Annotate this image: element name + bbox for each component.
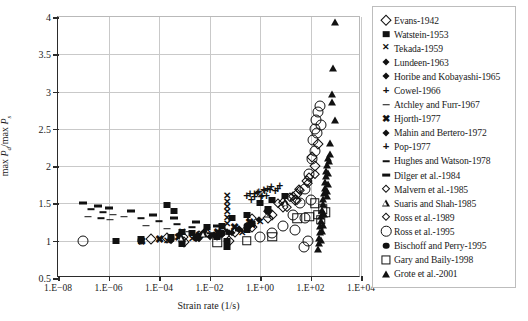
legend-item-label: Ross et al.-1995 [394, 226, 455, 237]
legend-item[interactable]: Evans-1942 [379, 13, 511, 27]
legend-item[interactable]: Mahin and Bertero-1972 [379, 126, 511, 140]
marker-diamond-open-small-icon [382, 213, 391, 222]
legend-item[interactable]: Ross et al.-1989 [379, 210, 511, 224]
y-axis-tick-label: 1 [46, 235, 51, 246]
marker-minus-icon [173, 224, 180, 226]
legend-item-label: Hjorth-1977 [394, 113, 440, 124]
marker-square-filled-icon [163, 202, 170, 208]
marker-square-open-icon [267, 232, 277, 242]
legend-item[interactable]: +Pop-1977 [379, 140, 511, 154]
marker-x-icon: ✕ [223, 191, 231, 201]
legend-item-label: Grote et al.-2001 [394, 268, 458, 279]
marker-diamond-open-icon [381, 15, 392, 26]
marker-circle-open-icon [255, 231, 266, 242]
marker-minus-icon [383, 160, 390, 162]
y-axis-tick-label: 3 [46, 86, 51, 97]
legend-marker [379, 253, 394, 267]
marker-diamond-filled-icon [382, 59, 389, 66]
legend-item[interactable]: ✕Tekada-1959 [379, 41, 511, 55]
marker-square-open-icon [212, 237, 222, 247]
marker-circle-open-icon [303, 235, 314, 246]
y-axis-tick-label: 0.5 [39, 273, 52, 284]
legend-item[interactable]: Malvern et al.-1985 [379, 182, 511, 196]
legend-marker [379, 126, 394, 140]
legend-item-label: Hughes and Watson-1978 [394, 155, 491, 166]
legend-item-label: Horibe and Kobayashi-1965 [394, 71, 500, 82]
y-axis-tick-label: 4 [46, 12, 51, 23]
marker-diamond-filled-icon [382, 129, 389, 136]
y-axis-tick [53, 166, 59, 168]
legend-marker [379, 69, 394, 83]
marker-minus-icon [138, 218, 145, 220]
legend-item[interactable]: +Cowel-1966 [379, 83, 511, 97]
marker-plus-icon: + [251, 191, 258, 203]
x-axis-tick-label: 1.E+02 [297, 283, 325, 293]
x-axis-tick-label: 1.E−04 [145, 283, 173, 293]
legend-marker: ✖ [379, 112, 394, 126]
x-axis-tick-label: 1.E−08 [44, 283, 72, 293]
marker-square-filled-icon [383, 31, 390, 37]
legend-item-label: Watstein-1953 [394, 29, 448, 40]
gridline-vertical [109, 17, 110, 276]
legend-item[interactable]: Horibe and Kobayashi-1965 [379, 69, 511, 83]
marker-triangle-filled-icon [325, 158, 333, 165]
legend-item[interactable]: ✖Hjorth-1977 [379, 112, 511, 126]
marker-triangle-filled-icon [324, 169, 332, 176]
marker-circle-open-icon [381, 226, 392, 237]
marker-thick-dash-icon [127, 209, 135, 212]
legend-marker [379, 55, 394, 69]
x-axis-tick [311, 276, 313, 281]
marker-circle-filled-icon [243, 222, 250, 229]
legend-item[interactable]: Suaris and Shah-1985 [379, 196, 511, 210]
legend-marker [379, 168, 394, 182]
legend-item[interactable]: Grote et al.-2001 [379, 267, 511, 281]
legend-item[interactable]: Dilger et al.-1984 [379, 168, 511, 182]
marker-triangle-filled-icon [324, 180, 332, 187]
marker-triangle-filled-icon [328, 98, 336, 105]
y-axis-tick-label: 2.5 [39, 123, 52, 134]
x-axis-title: Strain rate (1/s) [57, 300, 360, 311]
marker-circle-filled-icon [264, 207, 271, 214]
marker-minus-icon [97, 218, 104, 220]
marker-plus-icon: + [267, 184, 274, 196]
legend-item-label: Evans-1942 [394, 15, 439, 26]
legend-item-label: Suaris and Shah-1985 [394, 198, 476, 209]
marker-square-open-icon [242, 236, 252, 246]
y-axis-tick [53, 17, 59, 19]
x-axis-tick-label: 1.E+00 [246, 283, 274, 293]
marker-minus-icon [84, 216, 91, 218]
legend-item-label: Tekada-1959 [394, 43, 443, 54]
x-axis-tick-label: 1.E−06 [95, 283, 123, 293]
marker-plus-icon: + [258, 190, 265, 202]
legend-item-label: Dilger et al.-1984 [394, 170, 460, 181]
marker-minus-icon [99, 212, 106, 214]
marker-minus-icon [109, 214, 116, 216]
y-axis-tick [53, 129, 59, 131]
legend-item[interactable]: Bischoff and Perry-1995 [379, 239, 511, 253]
legend-item-label: Lundeen-1963 [394, 57, 449, 68]
marker-thick-dash-icon [235, 228, 243, 231]
marker-triangle-filled-icon [331, 117, 339, 124]
legend-item-label: Malvern et al.-1985 [394, 184, 468, 195]
legend-marker [379, 224, 394, 238]
marker-triangle-filled-icon [317, 236, 325, 243]
legend-item[interactable]: Gary and Baily-1998 [379, 253, 511, 267]
marker-triangle-filled-icon [320, 210, 328, 217]
y-axis-tick [53, 203, 59, 205]
marker-triangle-open-icon [178, 235, 186, 242]
marker-circle-open-icon [277, 220, 288, 231]
legend-item[interactable]: Atchley and Furr-1967 [379, 98, 511, 112]
legend-item[interactable]: Lundeen-1963 [379, 55, 511, 69]
plot-area: 0.511.522.533.541.E−081.E−061.E−041.E−02… [57, 16, 360, 277]
legend-item[interactable]: Watstein-1953 [379, 27, 511, 41]
marker-minus-icon [185, 231, 192, 233]
marker-minus-icon [107, 219, 114, 221]
legend-marker [379, 182, 394, 196]
marker-diamond-filled-icon [382, 73, 389, 80]
x-axis-tick [109, 276, 111, 281]
marker-thick-dash-icon [382, 174, 390, 177]
legend-item[interactable]: Ross et al.-1995 [379, 224, 511, 238]
legend: Evans-1942Watstein-1953✕Tekada-1959Lunde… [372, 6, 516, 288]
legend-item[interactable]: Hughes and Watson-1978 [379, 154, 511, 168]
y-axis-tick-label: 1.5 [39, 198, 52, 209]
